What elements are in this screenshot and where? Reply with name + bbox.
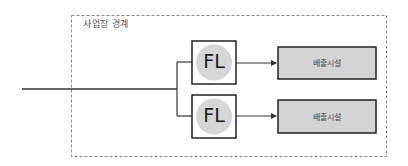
output-label-2: 배출시설 — [278, 111, 376, 122]
output-label-1: 배출시설 — [278, 57, 376, 68]
boundary-label: 사업장 경계 — [83, 17, 129, 30]
flare-label-1: FL — [192, 50, 236, 72]
flare-label-2: FL — [192, 104, 236, 126]
diagram-canvas — [0, 0, 408, 166]
